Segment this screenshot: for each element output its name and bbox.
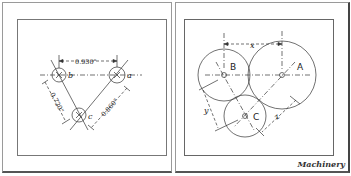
gear-label-a: A <box>297 62 304 72</box>
gear-label-c: C <box>253 112 259 122</box>
dimension-y: y <box>203 106 209 115</box>
dimension-z: z <box>271 112 282 123</box>
gear-c <box>224 95 266 137</box>
figure-credit: Machinery <box>297 159 345 169</box>
gear-layout-diagram: B A C x y z <box>0 0 351 176</box>
dimension-x: x <box>250 41 255 50</box>
gear-label-b: B <box>230 62 236 72</box>
